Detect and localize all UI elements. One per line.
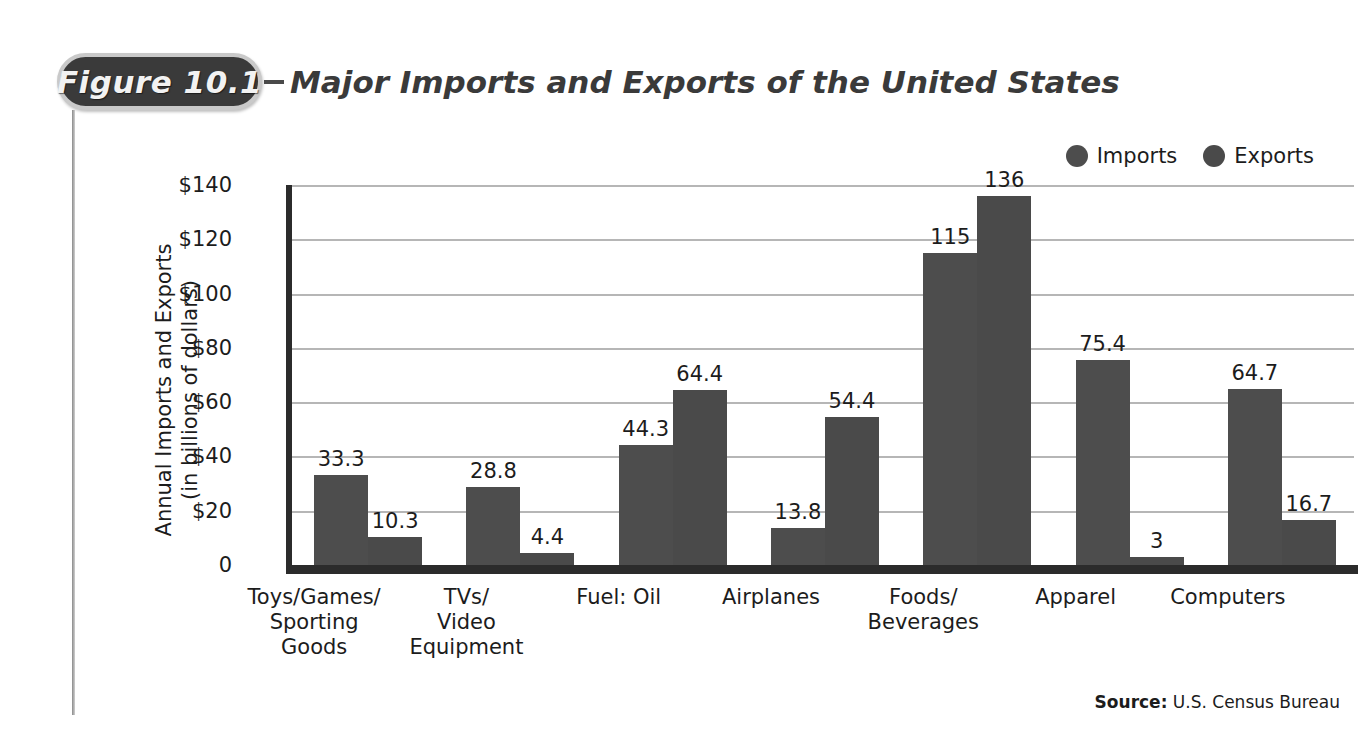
x-axis-category-label: Apparel xyxy=(999,585,1151,610)
bar-value-label: 4.4 xyxy=(531,525,564,549)
x-axis-category-line: Apparel xyxy=(999,585,1151,610)
bar-rect xyxy=(1130,557,1184,565)
bar-imports[interactable]: 28.8 xyxy=(466,185,520,565)
x-axis-category-label: TVs/VideoEquipment xyxy=(390,585,542,660)
y-axis-tick-label: $80 xyxy=(192,336,232,360)
x-axis-category-label: Computers xyxy=(1152,585,1304,610)
legend-swatch-exports-icon xyxy=(1203,145,1225,167)
figure-vertical-rule xyxy=(72,110,75,715)
bar-imports[interactable]: 64.7 xyxy=(1228,185,1282,565)
bar-value-label: 64.7 xyxy=(1231,361,1278,385)
y-axis-tick-label: $100 xyxy=(179,282,232,306)
bar-value-label: 136 xyxy=(984,168,1024,192)
bar-rect xyxy=(1076,360,1130,565)
legend-label: Exports xyxy=(1234,144,1314,168)
x-axis-category-label: Fuel: Oil xyxy=(543,585,695,610)
bar-rect xyxy=(368,537,422,565)
bar-rect xyxy=(771,528,825,565)
y-axis-tick-label: $120 xyxy=(179,227,232,251)
bar-value-label: 54.4 xyxy=(829,389,876,413)
source-note: Source: U.S. Census Bureau xyxy=(1095,692,1340,712)
bar-rect xyxy=(619,445,673,565)
bar-value-label: 13.8 xyxy=(775,500,822,524)
bar-exports[interactable]: 54.4 xyxy=(825,185,879,565)
bar-imports[interactable]: 115 xyxy=(923,185,977,565)
bar-rect xyxy=(466,487,520,565)
x-axis-category-label: Toys/Games/SportingGoods xyxy=(238,585,390,660)
legend-item-exports[interactable]: Exports xyxy=(1203,144,1314,168)
bar-value-label: 75.4 xyxy=(1079,332,1126,356)
bar-rect xyxy=(673,390,727,565)
y-axis-tick-label: $20 xyxy=(192,499,232,523)
bar-value-label: 64.4 xyxy=(676,362,723,386)
x-axis-category-label: Airplanes xyxy=(695,585,847,610)
bar-rect xyxy=(520,553,574,565)
bar-exports[interactable]: 4.4 xyxy=(520,185,574,565)
bar-exports[interactable]: 64.4 xyxy=(673,185,727,565)
legend-swatch-imports-icon xyxy=(1066,145,1088,167)
x-axis-category-line: TVs/ xyxy=(390,585,542,610)
figure-header: Figure 10.1 Major Imports and Exports of… xyxy=(0,0,1366,130)
figure-number-label: Figure 10.1 xyxy=(57,64,262,100)
bar-rect xyxy=(825,417,879,565)
x-axis-category-line: Toys/Games/ xyxy=(238,585,390,610)
bar-chart: Annual Imports and Exports (in billions … xyxy=(194,185,1310,575)
y-axis-line xyxy=(286,185,292,567)
y-axis-tick-label: $140 xyxy=(179,173,232,197)
x-axis-labels: Toys/Games/SportingGoodsTVs/VideoEquipme… xyxy=(238,585,1310,675)
bar-value-label: 115 xyxy=(930,225,970,249)
bar-exports[interactable]: 136 xyxy=(977,185,1031,565)
bar-rect xyxy=(923,253,977,565)
y-axis-tick-label: $60 xyxy=(192,390,232,414)
bar-rect xyxy=(314,475,368,565)
bar-exports[interactable]: 3 xyxy=(1130,185,1184,565)
x-axis-category-line: Equipment xyxy=(390,635,542,660)
bar-imports[interactable]: 44.3 xyxy=(619,185,673,565)
y-axis-title: Annual Imports and Exports (in billions … xyxy=(151,225,191,555)
x-axis-line xyxy=(286,565,1358,574)
bar-imports[interactable]: 13.8 xyxy=(771,185,825,565)
bar-rect xyxy=(977,196,1031,565)
bar-value-label: 28.8 xyxy=(470,459,517,483)
bar-value-label: 10.3 xyxy=(372,509,419,533)
x-axis-category-line: Fuel: Oil xyxy=(543,585,695,610)
x-axis-category-line: Computers xyxy=(1152,585,1304,610)
x-axis-category-line: Airplanes xyxy=(695,585,847,610)
x-axis-category-label: Foods/Beverages xyxy=(847,585,999,635)
bar-exports[interactable]: 10.3 xyxy=(368,185,422,565)
bar-exports[interactable]: 16.7 xyxy=(1282,185,1336,565)
bar-value-label: 3 xyxy=(1150,529,1163,553)
source-text: U.S. Census Bureau xyxy=(1173,692,1340,712)
x-axis-category-line: Video xyxy=(390,610,542,635)
figure-dash-connector xyxy=(264,80,284,84)
plot-area: 0$20$40$60$80$100$120$14033.310.328.84.4… xyxy=(242,185,1310,565)
x-axis-category-line: Beverages xyxy=(847,610,999,635)
bar-value-label: 33.3 xyxy=(318,447,365,471)
y-axis-title-line1: Annual Imports and Exports xyxy=(151,225,177,555)
y-axis-tick-label: $40 xyxy=(192,444,232,468)
bar-imports[interactable]: 33.3 xyxy=(314,185,368,565)
source-label: Source: xyxy=(1095,692,1168,712)
figure-number-badge: Figure 10.1 xyxy=(57,53,262,110)
y-axis-tick-label: 0 xyxy=(219,553,232,577)
x-axis-category-line: Foods/ xyxy=(847,585,999,610)
chart-legend: ImportsExports xyxy=(1066,144,1314,168)
legend-label: Imports xyxy=(1097,144,1178,168)
bar-rect xyxy=(1282,520,1336,565)
bar-value-label: 44.3 xyxy=(622,417,669,441)
figure-title: Major Imports and Exports of the United … xyxy=(290,55,1120,109)
legend-item-imports[interactable]: Imports xyxy=(1066,144,1178,168)
bar-imports[interactable]: 75.4 xyxy=(1076,185,1130,565)
bar-value-label: 16.7 xyxy=(1285,492,1332,516)
x-axis-category-line: Goods xyxy=(238,635,390,660)
x-axis-category-line: Sporting xyxy=(238,610,390,635)
bar-rect xyxy=(1228,389,1282,565)
